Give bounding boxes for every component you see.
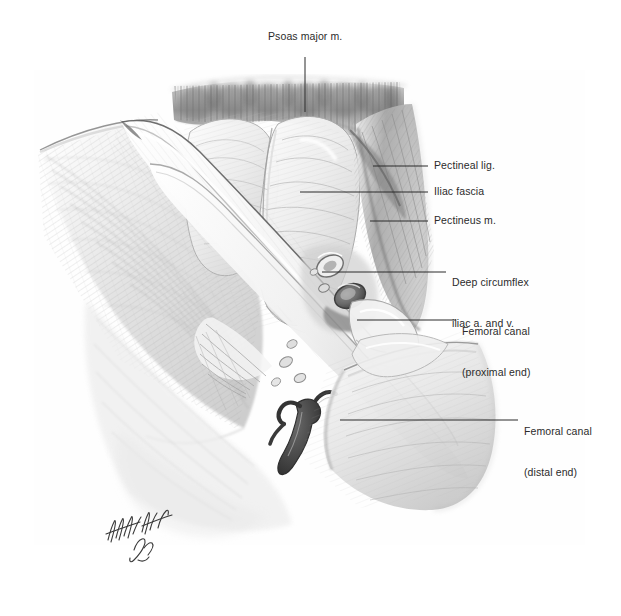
label-pectineus-muscle: Pectineus m. bbox=[434, 214, 496, 227]
anatomical-illustration-figure: Psoas major m. Pectineal lig. Iliac fasc… bbox=[0, 0, 621, 616]
label-line-1: Femoral canal bbox=[524, 425, 592, 439]
label-psoas-major: Psoas major m. bbox=[268, 30, 342, 43]
label-line-2: (distal end) bbox=[524, 466, 592, 480]
label-line-2: (proximal end) bbox=[462, 366, 531, 380]
label-femoral-canal-proximal: Femoral canal (proximal end) bbox=[462, 298, 531, 406]
label-line-1: Deep circumflex bbox=[452, 276, 529, 290]
label-femoral-canal-distal: Femoral canal (distal end) bbox=[524, 398, 592, 506]
label-line-1: Femoral canal bbox=[462, 325, 531, 339]
label-iliac-fascia: Iliac fascia bbox=[434, 185, 484, 198]
label-pectineal-ligament: Pectineal lig. bbox=[434, 159, 495, 172]
